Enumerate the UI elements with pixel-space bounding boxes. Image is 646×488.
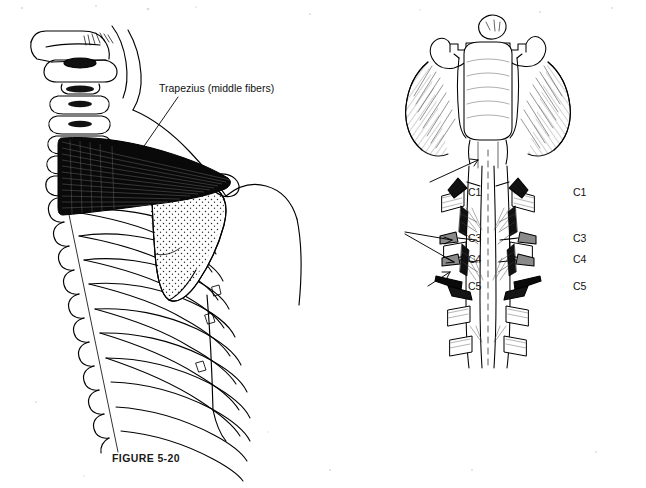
root-label-c5-right: C5 <box>573 280 586 292</box>
occiput-and-brainstem <box>406 15 571 168</box>
annotation-trapezius: Trapezius (middle fibers) <box>159 82 274 96</box>
annotation-trapezius-text: Trapezius (middle fibers) <box>159 82 274 96</box>
page-canvas: Trapezius (middle fibers) FIGURE 5-20 <box>0 0 646 488</box>
root-label-c1-right: C1 <box>573 186 586 198</box>
root-label-c3-right: C3 <box>573 232 586 244</box>
cervical-atlas-axis <box>44 58 117 94</box>
figure-5-21-illustration <box>330 0 646 488</box>
root-label-c5-left: C5 <box>468 280 481 292</box>
figure-5-21-panel: C1 C3 C4 C5 C1 C3 C4 C5 XI Accessory To:… <box>330 0 646 488</box>
root-label-c4-right: C4 <box>573 253 586 265</box>
figure-5-20-illustration <box>0 0 330 488</box>
root-label-c3-left: C3 <box>468 232 481 244</box>
root-label-c4-left: C4 <box>468 253 481 265</box>
figure-caption-5-20: FIGURE 5-20 <box>112 452 180 464</box>
thoracic-spine <box>48 198 118 453</box>
figure-5-20-panel: Trapezius (middle fibers) FIGURE 5-20 <box>0 0 330 488</box>
root-label-c1-left: C1 <box>468 186 481 198</box>
